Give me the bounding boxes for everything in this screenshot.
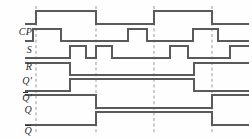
signal-label-qbar-prime-mark: '	[30, 92, 32, 103]
signal-trace-group	[25, 11, 249, 125]
signal-label-cp: CP	[4, 27, 32, 37]
signal-label-cp-text: CP	[19, 26, 32, 37]
signal-label-s-text: S	[27, 44, 32, 55]
signal-label-qbar: Q	[4, 126, 32, 136]
signal-label-qbar-prime: Q'	[4, 93, 32, 103]
signal-label-r-text: R	[26, 61, 32, 72]
signal-label-q-text: Q	[25, 104, 32, 115]
signal-trace-r	[25, 46, 249, 58]
signal-label-s: S	[4, 45, 32, 55]
signal-trace-s	[25, 29, 249, 41]
signal-label-qbar-prime-base: Q	[22, 93, 29, 103]
signal-trace-cp	[25, 11, 249, 24]
signal-label-qbar-text: Q	[25, 126, 32, 136]
signal-label-q-prime-base: Q	[22, 75, 29, 86]
signal-trace-qpbar	[25, 79, 249, 91]
timing-diagram: CP S R Q' Q' Q Q	[0, 0, 252, 139]
clock-edge-marker-group	[36, 6, 212, 133]
signal-label-r: R	[4, 62, 32, 72]
signal-trace-qbar	[25, 112, 249, 125]
signal-trace-q	[25, 95, 249, 108]
signal-label-q-prime: Q'	[4, 76, 32, 86]
waveform-canvas	[0, 0, 252, 139]
signal-label-q: Q	[4, 105, 32, 115]
signal-trace-qp	[25, 63, 249, 75]
signal-label-q-prime-mark: '	[30, 75, 32, 86]
